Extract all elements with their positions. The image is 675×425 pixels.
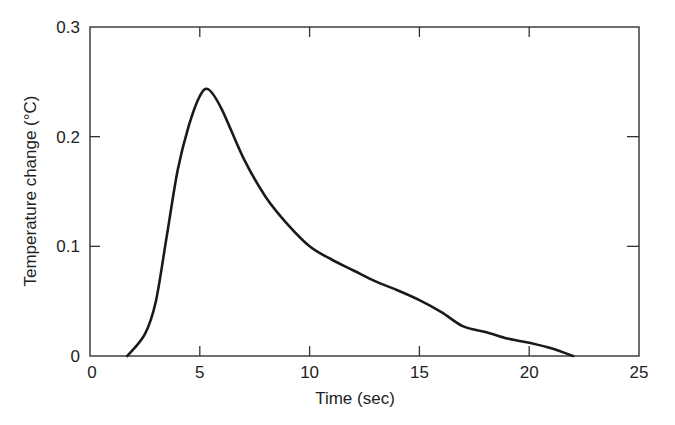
x-tick-label: 15 — [410, 363, 429, 382]
y-tick-label: 0 — [71, 347, 80, 366]
x-tick-label: 10 — [300, 363, 319, 382]
x-tick-label: 20 — [520, 363, 539, 382]
x-tick-label: 5 — [195, 363, 204, 382]
chart: 0510152025 00.10.20.3 Time (sec) Tempera… — [0, 0, 675, 425]
x-tick-label: 0 — [87, 363, 96, 382]
x-axis-title: Time (sec) — [315, 389, 395, 408]
plot-frame — [90, 27, 639, 356]
y-tick-label: 0.3 — [56, 18, 80, 37]
y-tick-label: 0.1 — [56, 237, 80, 256]
temperature-curve — [127, 89, 573, 356]
y-axis-ticks: 00.10.20.3 — [56, 18, 639, 366]
plot-border — [90, 27, 639, 356]
x-tick-label: 25 — [630, 363, 649, 382]
y-tick-label: 0.2 — [56, 128, 80, 147]
y-axis-title: Temperature change (°C) — [21, 95, 40, 286]
